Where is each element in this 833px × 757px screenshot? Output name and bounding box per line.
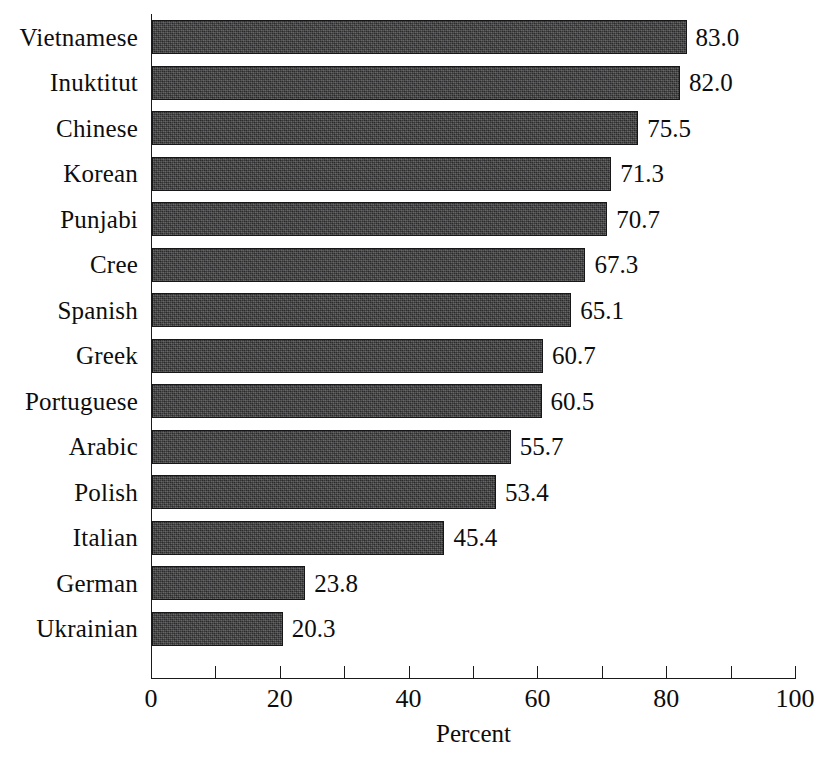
bar-row: Cree67.3: [151, 242, 795, 288]
bar: [152, 384, 542, 418]
bar-chart: Vietnamese83.0Inuktitut82.0Chinese75.5Ko…: [0, 0, 833, 757]
bar: [152, 612, 283, 646]
x-tick-minor: [731, 666, 732, 679]
x-tick-label: 80: [653, 686, 679, 712]
bar-value-label: 55.7: [520, 434, 564, 459]
bar: [152, 475, 496, 509]
bar-row: Spanish65.1: [151, 287, 795, 333]
x-tick-major: [537, 666, 538, 679]
bar-value-label: 82.0: [689, 70, 733, 95]
bar-value-label: 60.5: [551, 388, 595, 413]
bar-row: Korean71.3: [151, 151, 795, 197]
category-label: Spanish: [57, 297, 138, 322]
bar-value-label: 70.7: [616, 206, 660, 231]
bar: [152, 202, 607, 236]
category-label: Ukrainian: [36, 616, 138, 641]
category-label: German: [56, 570, 138, 595]
x-tick-minor: [215, 666, 216, 679]
bar-row: Polish53.4: [151, 469, 795, 515]
bar-value-label: 67.3: [594, 252, 638, 277]
bar: [152, 339, 543, 373]
bar-row: German23.8: [151, 560, 795, 606]
x-tick-minor: [473, 666, 474, 679]
x-tick-major: [666, 666, 667, 679]
bar: [152, 111, 638, 145]
x-axis-title: Percent: [151, 721, 796, 746]
x-tick-minor: [344, 666, 345, 679]
x-tick-label: 40: [396, 686, 422, 712]
bar: [152, 157, 611, 191]
category-label: Inuktitut: [50, 70, 138, 95]
category-label: Portuguese: [25, 388, 138, 413]
bar-value-label: 53.4: [505, 479, 549, 504]
bar-row: Arabic55.7: [151, 424, 795, 470]
category-label: Italian: [73, 525, 138, 550]
x-tick-major: [151, 666, 152, 679]
bar-row: Ukrainian20.3: [151, 606, 795, 652]
category-label: Chinese: [56, 115, 138, 140]
category-label: Greek: [76, 343, 138, 368]
bar-value-label: 45.4: [453, 525, 497, 550]
bar-row: Inuktitut82.0: [151, 60, 795, 106]
category-label: Polish: [74, 479, 138, 504]
category-label: Vietnamese: [19, 24, 138, 49]
bar-value-label: 65.1: [580, 297, 624, 322]
bar-row: Chinese75.5: [151, 105, 795, 151]
x-tick-minor: [602, 666, 603, 679]
bar-value-label: 23.8: [314, 570, 358, 595]
bar-row: Greek60.7: [151, 333, 795, 379]
bar: [152, 566, 305, 600]
bar-row: Vietnamese83.0: [151, 14, 795, 60]
x-tick-major: [409, 666, 410, 679]
bar-row: Italian45.4: [151, 515, 795, 561]
bar-value-label: 71.3: [620, 161, 664, 186]
x-tick-label: 0: [145, 686, 158, 712]
category-label: Korean: [63, 161, 138, 186]
bar: [152, 521, 444, 555]
category-label: Punjabi: [60, 206, 138, 231]
bar: [152, 430, 511, 464]
x-tick-label: 100: [776, 686, 815, 712]
category-label: Cree: [90, 252, 138, 277]
bar: [152, 293, 571, 327]
bar-value-label: 75.5: [647, 115, 691, 140]
bar: [152, 20, 687, 54]
bar-value-label: 83.0: [696, 24, 740, 49]
bar-row: Portuguese60.5: [151, 378, 795, 424]
bar: [152, 66, 680, 100]
x-tick-major: [795, 666, 796, 679]
x-tick-label: 60: [524, 686, 550, 712]
bar-value-label: 20.3: [292, 616, 336, 641]
bar: [152, 248, 585, 282]
bar-value-label: 60.7: [552, 343, 596, 368]
category-label: Arabic: [69, 434, 138, 459]
x-tick-major: [280, 666, 281, 679]
bar-row: Punjabi70.7: [151, 196, 795, 242]
x-tick-label: 20: [267, 686, 293, 712]
